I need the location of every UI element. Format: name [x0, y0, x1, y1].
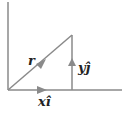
x-arrow-icon [37, 86, 47, 94]
y-arrow-icon [68, 58, 76, 66]
vector-diagram: r yĵ xî [0, 0, 127, 114]
x-component-label: xî [37, 94, 52, 109]
r-label: r [28, 53, 36, 68]
r-arrow-icon [36, 59, 46, 69]
y-component-label: yĵ [77, 60, 91, 75]
